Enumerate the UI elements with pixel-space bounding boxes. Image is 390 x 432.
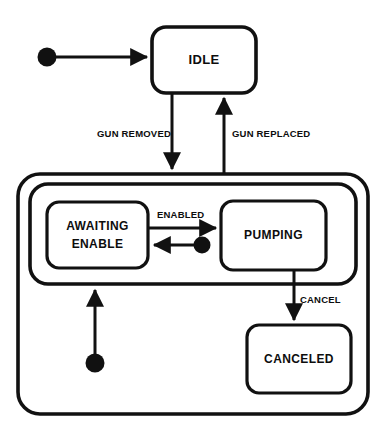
- state-canceled[interactable]: CANCELED: [247, 325, 351, 393]
- transition-label-gun-removed: GUN REMOVED: [97, 128, 171, 139]
- state-idle[interactable]: IDLE: [152, 27, 256, 93]
- state-pumping-label: PUMPING: [244, 228, 303, 242]
- state-awaiting-enable-label-line1: AWAITING: [66, 219, 129, 233]
- initial-state-node-gunout[interactable]: [86, 354, 105, 373]
- transition-label-gun-replaced: GUN REPLACED: [232, 128, 310, 139]
- state-awaiting-enable-box[interactable]: [47, 202, 148, 268]
- state-awaiting-enable[interactable]: AWAITING ENABLE: [47, 202, 148, 268]
- transition-label-enabled: ENABLED: [157, 209, 204, 220]
- transition-label-cancel: CANCEL: [300, 294, 341, 305]
- state-canceled-label: CANCELED: [264, 352, 334, 366]
- initial-state-node-awaiting[interactable]: [194, 237, 211, 254]
- state-awaiting-enable-label-line2: ENABLE: [72, 237, 124, 251]
- initial-state-node-idle[interactable]: [38, 48, 57, 67]
- state-diagram-svg: IDLE AWAITING ENABLE PUMPING CANCELED GU…: [0, 0, 390, 432]
- state-idle-label: IDLE: [188, 52, 219, 67]
- state-pumping[interactable]: PUMPING: [221, 201, 326, 270]
- state-diagram-canvas: IDLE AWAITING ENABLE PUMPING CANCELED GU…: [0, 0, 390, 432]
